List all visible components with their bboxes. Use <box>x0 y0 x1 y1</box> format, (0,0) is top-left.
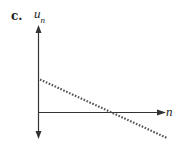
data-line-dotted <box>40 80 167 139</box>
x-axis-right-arrow-icon <box>157 110 166 116</box>
graph-canvas <box>0 0 176 142</box>
y-axis-down-arrow-icon <box>36 131 42 139</box>
y-axis-up-arrow-icon <box>36 25 42 33</box>
